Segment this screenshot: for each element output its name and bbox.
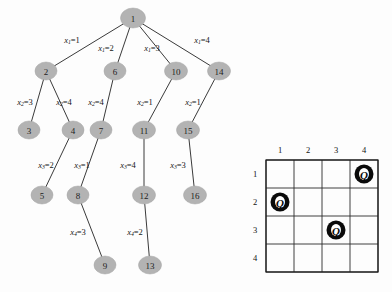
queen-letter: Q: [332, 225, 340, 237]
board-column-header: 4: [362, 145, 367, 155]
tree-edge: [145, 204, 150, 257]
tree-edge: [189, 139, 194, 187]
tree-node: 14: [208, 62, 231, 80]
tree-edge: [118, 27, 130, 63]
tree-node: 8: [67, 186, 89, 204]
tree-node: 16: [184, 186, 207, 204]
tree-edges-layer: [31, 23, 215, 257]
tree-node-label: 1: [131, 14, 136, 24]
tree-node: 15: [177, 121, 200, 139]
tree-edge-label: x2=3: [16, 97, 33, 107]
tree-node: 10: [165, 62, 188, 80]
tree-edge-label: x1=1: [63, 35, 80, 45]
tree-node-label: 16: [191, 191, 201, 201]
tree-node-label: 9: [103, 261, 108, 271]
queen-piece: Q: [327, 221, 346, 240]
tree-node-label: 2: [44, 67, 49, 77]
tree-node-label: 7: [99, 126, 104, 136]
tree-edge-label: x2=4: [87, 97, 104, 107]
tree-node-label: 13: [146, 261, 156, 271]
board-row-header: 3: [253, 225, 257, 235]
chessboard-layer: 12341234QQQ: [253, 145, 378, 272]
tree-edge-label: x2=1: [136, 97, 153, 107]
tree-node: 12: [133, 186, 156, 204]
tree-edge-label: x1=4: [193, 35, 210, 45]
tree-edge-label: x2=1: [184, 97, 201, 107]
queen-letter: Q: [360, 169, 368, 181]
tree-node: 2: [35, 62, 57, 80]
tree-node-label: 15: [184, 126, 194, 136]
queen-piece: Q: [271, 193, 290, 212]
tree-edge-label: x2=4: [55, 97, 72, 107]
tree-node: 9: [94, 256, 116, 274]
tree-edge-label: x4=2: [126, 227, 143, 237]
tree-node-label: 4: [71, 126, 76, 136]
tree-node: 3: [18, 121, 40, 139]
tree-node-label: 5: [40, 191, 45, 201]
board-row-header: 4: [253, 253, 258, 263]
tree-edge-label: x3=1: [73, 160, 90, 170]
tree-node: 1: [121, 8, 146, 28]
tree-node: 4: [62, 121, 84, 139]
tree-edge: [103, 79, 113, 121]
board-row-header: 1: [253, 169, 257, 179]
tree-node-label: 12: [140, 191, 149, 201]
tree-edge-label: x3=3: [169, 160, 186, 170]
tree-node: 11: [133, 121, 156, 139]
tree-node: 6: [104, 62, 126, 80]
tree-node-label: 8: [76, 191, 81, 201]
tree-edge-label: x3=2: [37, 160, 54, 170]
tree-edge-label: x4=3: [69, 227, 86, 237]
tree-node: 5: [31, 186, 53, 204]
tree-nodes-layer: 12610143471115581216913: [18, 8, 231, 274]
tree-node-label: 10: [172, 67, 182, 77]
tree-node-label: 3: [27, 126, 32, 136]
tree-edge-label: x1=2: [97, 43, 114, 53]
tree-node-label: 6: [113, 67, 118, 77]
queen-letter: Q: [276, 197, 284, 209]
tree-edge-label: x3=4: [119, 160, 136, 170]
board-column-header: 2: [306, 145, 310, 155]
tree-edge-label: x1=3: [143, 43, 160, 53]
tree-node: 13: [139, 256, 162, 274]
search-tree-and-chessboard-figure: 12610143471115581216913 x1=1x1=2x1=3x1=4…: [0, 0, 392, 292]
tree-node-label: 14: [215, 67, 225, 77]
board-row-header: 2: [253, 197, 257, 207]
queen-piece: Q: [355, 165, 374, 184]
tree-edge: [31, 79, 43, 122]
board-column-header: 3: [334, 145, 338, 155]
tree-node-label: 11: [140, 126, 149, 136]
board-column-header: 1: [278, 145, 282, 155]
tree-node: 7: [90, 121, 112, 139]
